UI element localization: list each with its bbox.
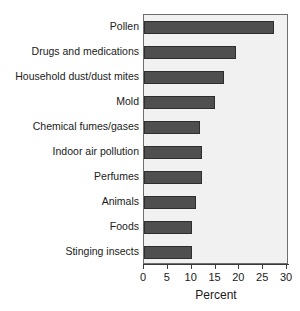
category-label: Perfumes xyxy=(0,171,139,182)
category-label: Stinging insects xyxy=(0,246,139,257)
plot-area xyxy=(143,14,288,264)
x-tick xyxy=(215,264,216,269)
x-tick-label: 15 xyxy=(202,271,228,283)
bar xyxy=(144,71,224,84)
x-tick-label: 0 xyxy=(130,271,156,283)
bar xyxy=(144,221,192,234)
x-tick-label: 20 xyxy=(225,271,251,283)
category-label: Mold xyxy=(0,96,139,107)
category-label: Animals xyxy=(0,196,139,207)
bar xyxy=(144,46,236,59)
bar xyxy=(144,121,200,134)
x-tick xyxy=(238,264,239,269)
x-tick-label: 25 xyxy=(249,271,275,283)
x-tick xyxy=(167,264,168,269)
category-label: Indoor air pollution xyxy=(0,146,139,157)
x-axis-line xyxy=(143,264,289,265)
category-axis-labels: PollenDrugs and medicationsHousehold dus… xyxy=(0,14,139,264)
category-label: Drugs and medications xyxy=(0,46,139,57)
bar xyxy=(144,171,202,184)
bar xyxy=(144,196,196,209)
x-axis-title: Percent xyxy=(143,288,289,302)
x-tick-label: 30 xyxy=(273,271,299,283)
x-tick-label: 10 xyxy=(178,271,204,283)
category-label: Chemical fumes/gases xyxy=(0,121,139,132)
bar xyxy=(144,96,215,109)
category-label: Pollen xyxy=(0,21,139,32)
x-tick xyxy=(286,264,287,269)
x-tick xyxy=(191,264,192,269)
category-label: Household dust/dust mites xyxy=(0,71,139,82)
x-tick-label: 5 xyxy=(154,271,180,283)
x-tick xyxy=(262,264,263,269)
x-tick xyxy=(143,264,144,269)
bar xyxy=(144,146,202,159)
bar-chart: PollenDrugs and medicationsHousehold dus… xyxy=(0,0,300,311)
bar xyxy=(144,21,274,34)
bar xyxy=(144,246,192,259)
category-label: Foods xyxy=(0,221,139,232)
